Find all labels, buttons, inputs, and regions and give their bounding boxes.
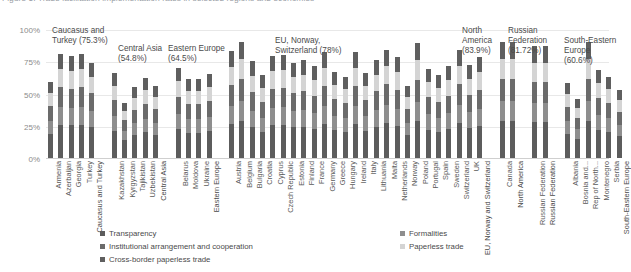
x-axis-label: Sweden <box>452 161 461 188</box>
bar-segment <box>446 96 451 113</box>
bar <box>301 60 306 158</box>
bar-segment <box>79 54 84 70</box>
bar <box>291 63 296 158</box>
bar <box>143 78 148 158</box>
bar-segment <box>395 126 400 158</box>
bar-segment <box>543 82 548 103</box>
legend-column-1: TransparencyInstitutional arrangement an… <box>100 228 253 267</box>
bar-segment <box>48 106 53 120</box>
x-axis-label: Russian Federation <box>538 161 547 225</box>
bar-segment <box>374 60 379 75</box>
bar-segment <box>260 102 265 118</box>
bar-segment <box>353 52 358 68</box>
bar-segment <box>260 75 265 87</box>
x-axis-label: Bosnia and... <box>581 161 590 204</box>
bar-segment <box>112 86 117 100</box>
bar-segment <box>446 129 451 158</box>
legend-item[interactable]: Paperless trade <box>400 241 464 253</box>
bar-segment <box>270 56 275 71</box>
x-axis-label: Armenia <box>54 161 63 189</box>
bar-segment <box>48 121 53 134</box>
bar-segment <box>301 91 306 110</box>
bar <box>343 77 348 158</box>
bar-segment <box>176 81 181 96</box>
bar-segment <box>374 91 379 110</box>
bar <box>122 103 127 158</box>
bar-segment <box>112 131 117 158</box>
bar <box>312 66 317 158</box>
bar-segment <box>363 100 368 116</box>
legend-item[interactable]: Transparency <box>100 228 253 240</box>
bar-segment <box>395 72 400 89</box>
bar-segment <box>343 89 348 103</box>
gridline <box>46 95 609 96</box>
bar-segment <box>575 129 580 139</box>
bar-segment <box>143 132 148 158</box>
y-axis-tick-label: 100% <box>0 26 40 35</box>
bar <box>457 50 462 158</box>
bar-segment <box>436 88 441 102</box>
bar-segment <box>426 69 431 82</box>
bar-segment <box>596 98 601 115</box>
legend-item[interactable]: Institutional arrangement and cooperatio… <box>100 241 253 253</box>
bar-segment <box>477 57 482 72</box>
bar-segment <box>270 89 275 108</box>
bar-segment <box>132 135 137 158</box>
bar-segment <box>153 123 158 135</box>
bar <box>384 50 389 158</box>
bar-segment <box>291 111 296 127</box>
bar-segment <box>186 79 191 91</box>
bar-segment <box>153 86 158 97</box>
bar-segment <box>79 87 84 107</box>
bar-segment <box>384 105 389 123</box>
bar-segment <box>153 109 158 123</box>
bar-segment <box>617 136 622 158</box>
bar-segment <box>457 50 462 66</box>
bar-segment <box>69 108 74 125</box>
bar-segment <box>291 93 296 111</box>
bar-segment <box>89 111 94 127</box>
bar-segment <box>48 134 53 158</box>
bar-segment <box>132 87 137 98</box>
bar-segment <box>532 82 537 103</box>
bar-segment <box>176 129 181 158</box>
bar-segment <box>196 119 201 132</box>
legend-label: Cross-border paperless trade <box>109 255 210 264</box>
x-axis-label: Ukraine <box>202 161 211 186</box>
legend-swatch-icon <box>100 244 105 249</box>
legend-label: Paperless trade <box>409 242 464 251</box>
bar-segment <box>48 82 53 93</box>
bar-segment <box>58 125 63 158</box>
bar-segment <box>384 84 389 105</box>
bar-segment <box>207 87 212 101</box>
bar-segment <box>312 80 317 96</box>
bar-segment <box>510 79 515 101</box>
legend-item[interactable]: Formalities <box>400 228 464 240</box>
group-annotation: Caucasus and Turkey (75.3%) <box>52 26 108 46</box>
bar-segment <box>596 115 601 130</box>
group-annotation: Russian Federation (81.72%) <box>508 26 547 56</box>
bar-segment <box>596 70 601 83</box>
x-axis-label: Central Asia <box>159 161 168 201</box>
bar-segment <box>374 75 379 92</box>
bar-segment <box>69 56 74 71</box>
bar-segment <box>575 139 580 158</box>
bar-segment <box>606 118 611 132</box>
bar-segment <box>565 94 570 107</box>
bar-segment <box>477 109 482 126</box>
bar-segment <box>312 129 317 158</box>
bar-segment <box>176 68 181 82</box>
y-axis-tick-label: 75% <box>0 58 40 67</box>
x-axis-label: Rep of North... <box>591 161 600 209</box>
bar-segment <box>301 110 306 127</box>
bar-segment <box>543 103 548 122</box>
bar-segment <box>229 85 234 105</box>
bar-segment <box>467 95 472 113</box>
bar <box>363 73 368 158</box>
legend-label: Formalities <box>409 229 447 238</box>
bar-segment <box>332 116 337 131</box>
legend-item[interactable]: Cross-border paperless trade <box>100 254 253 266</box>
bar <box>405 86 410 158</box>
bar-segment <box>565 107 570 121</box>
bar-segment <box>89 127 94 158</box>
